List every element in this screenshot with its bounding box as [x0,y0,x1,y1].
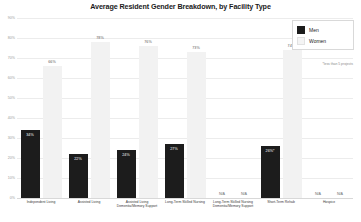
bar-women[interactable]: 76% [139,46,158,198]
bar-men[interactable]: 27% [165,144,184,198]
bar-group: 27%73% [161,18,209,198]
legend-swatch-men [297,26,305,34]
chart-legend: MenWomen [292,20,354,50]
bar-value-label: 73% [192,46,199,50]
legend-label: Women [309,38,326,44]
bar-value-label: 22% [74,157,81,161]
y-axis-tick-label: 90% [8,16,15,20]
bar-men[interactable]: 26%* [261,146,280,198]
bar-na-label: N/A [241,192,247,196]
bar-women[interactable]: 74%* [283,50,302,198]
bar-value-label: 76% [144,40,151,44]
bar-group: 22%78% [65,18,113,198]
bar-value-label: 26%* [266,149,275,153]
chart-container: Average Resident Gender Breakdown, by Fa… [0,0,361,222]
x-axis-category-label: Long-Term Skilled NursingDementia/Memory… [209,200,257,220]
bar-slot: 78% [91,18,110,198]
bar-na-label: N/A [219,192,225,196]
bar-group: 24%76% [113,18,161,198]
bar-men[interactable]: 34% [21,130,40,198]
bar-slot: 66% [43,18,62,198]
y-axis-tick-label: 80% [8,36,15,40]
bar-women[interactable]: 66% [43,66,62,198]
bar-value-label: 66% [48,60,55,64]
bar-men[interactable]: 24% [117,150,136,198]
y-axis-tick-label: 60% [8,76,15,80]
bar-women[interactable]: 78% [91,42,110,198]
bar-na-label: N/A [315,192,321,196]
x-axis-category-label: Short-Term Rehab [257,200,305,220]
x-axis-labels: Independent LivingAssisted LivingAssiste… [17,200,353,220]
y-axis-tick-label: 10% [8,176,15,180]
x-axis-category-label: Independent Living [17,200,65,220]
bar-value-label: 78% [96,36,103,40]
y-axis-tick-label: 30% [8,136,15,140]
bar-slot: 34% [21,18,40,198]
y-axis-tick-label: 40% [8,116,15,120]
bar-women[interactable]: 73% [187,52,206,198]
y-axis-tick-label: 50% [8,96,15,100]
bar-slot: 73% [187,18,206,198]
legend-swatch-women [297,37,305,45]
y-axis-tick-label: 70% [8,56,15,60]
x-axis-category-label: Assisted LivingDementia/Memory Support [113,200,161,220]
legend-item-women[interactable]: Women [297,35,349,46]
x-axis-category-label: Long-Term Skilled Nursing [161,200,209,220]
bar-na-label: N/A [337,192,343,196]
bar-men[interactable]: 22% [69,154,88,198]
bar-value-label: 27% [170,147,177,151]
bar-group: N/AN/A [209,18,257,198]
bar-value-label: 24% [122,153,129,157]
x-axis-category-label: Assisted Living [65,200,113,220]
y-axis-labels: 0%10%20%30%40%50%60%70%80%90% [0,18,17,198]
bar-value-label: 34% [26,133,33,137]
bar-slot: 24% [117,18,136,198]
bar-slot: N/A [235,18,254,198]
chart-footnote: *less than 5 projects [322,62,353,66]
y-axis-tick-label: 0% [10,196,15,200]
bar-slot: 27% [165,18,184,198]
y-axis-tick-label: 20% [8,156,15,160]
chart-title: Average Resident Gender Breakdown, by Fa… [0,2,361,11]
bar-slot: 26%* [261,18,280,198]
legend-item-men[interactable]: Men [297,24,349,35]
bar-slot: N/A [213,18,232,198]
x-axis-category-label: Hospice [305,200,353,220]
bar-slot: 22% [69,18,88,198]
bar-group: 34%66% [17,18,65,198]
legend-label: Men [309,27,319,33]
bar-slot: 76% [139,18,158,198]
gridline [17,198,353,199]
